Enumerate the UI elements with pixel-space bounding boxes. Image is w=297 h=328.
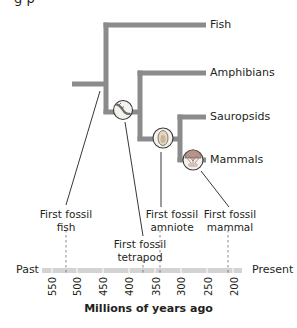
tick-200: 200 [229, 276, 240, 298]
event-label-first-fossil-tetrapod: First fossil tetrapod [108, 238, 172, 263]
phylogeny-diagram: g p [0, 0, 297, 328]
tick-500: 500 [72, 276, 83, 298]
tick-400: 400 [124, 276, 135, 298]
tick-350: 350 [151, 276, 162, 298]
timeline-bar [42, 268, 242, 273]
fish-connector [66, 91, 100, 205]
event-label-first-fossil-amniote: First fossil amniote [140, 208, 204, 233]
taxon-label-mammals: Mammals [210, 154, 263, 166]
timeline-axis-title: Millions of years ago [0, 302, 297, 315]
timeline-past-label: Past [16, 264, 39, 276]
mammal-embryo-icon [183, 150, 203, 170]
tick-550: 550 [47, 276, 58, 298]
event-label-first-fossil-mammal: First fossil mammal [198, 208, 262, 233]
tick-450: 450 [98, 276, 109, 298]
mammal-connector [201, 171, 229, 207]
tetrapod-limb-icon [114, 101, 133, 120]
taxon-label-sauropsids: Sauropsids [210, 111, 270, 123]
taxon-label-amphibians: Amphibians [210, 67, 275, 79]
taxon-label-fish: Fish [210, 19, 231, 31]
tick-250: 250 [203, 276, 214, 298]
amniotic-egg-icon [153, 128, 173, 148]
timeline-present-label: Present [252, 264, 293, 276]
event-label-first-fossil-fish: First fossil fish [36, 208, 96, 233]
tick-300: 300 [176, 276, 187, 298]
tree-branches [72, 23, 206, 163]
